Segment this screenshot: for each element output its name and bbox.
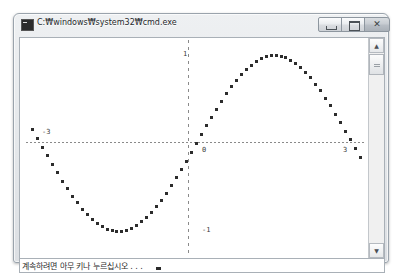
data-point [66, 187, 69, 190]
prompt-line: 계속하려면 아무 키나 누르십시오 . . . [19, 259, 385, 273]
x-tick-0: 0 [202, 146, 206, 154]
data-point [71, 195, 74, 198]
data-point [270, 54, 273, 57]
data-point [145, 216, 148, 219]
data-point [195, 142, 198, 145]
text-cursor [156, 267, 161, 270]
data-point [294, 62, 297, 65]
data-point [255, 60, 258, 63]
ascii-sine-plot: -3031-1 [20, 38, 369, 258]
data-point [76, 201, 79, 204]
prompt-text: 계속하려면 아무 키나 누르십시오 . . . [22, 260, 143, 271]
scroll-down-arrow-icon[interactable]: ▼ [369, 243, 384, 258]
data-point [324, 97, 327, 100]
data-point [354, 147, 357, 150]
data-point [284, 56, 287, 59]
data-point [319, 89, 322, 92]
data-point [190, 151, 193, 154]
data-point [314, 83, 317, 86]
data-point [130, 227, 133, 230]
data-point [349, 138, 352, 141]
y-tick-1: 1 [183, 50, 187, 58]
data-point [339, 121, 342, 124]
y-tick-minus-1: -1 [202, 226, 210, 234]
data-point [155, 205, 158, 208]
data-point [115, 230, 118, 233]
data-point [304, 71, 307, 74]
data-point [96, 222, 99, 225]
data-point [210, 116, 213, 119]
data-point [240, 73, 243, 76]
data-point [175, 176, 178, 179]
scrollbar-thumb[interactable] [369, 54, 384, 75]
data-point [106, 228, 109, 231]
x-tick-3: 3 [343, 146, 347, 154]
close-icon: ✕ [365, 18, 389, 31]
data-point [289, 59, 292, 62]
window-title: C:₩windows₩system32₩cmd.exe [37, 18, 177, 27]
console-window[interactable]: C:₩windows₩system32₩cmd.exe ✕ -3031-1 ▲ … [13, 13, 389, 263]
y-axis [188, 40, 189, 255]
data-point [299, 66, 302, 69]
data-point [125, 229, 128, 232]
vertical-scrollbar[interactable]: ▲ ▼ [368, 38, 384, 258]
console-icon [21, 19, 34, 31]
x-tick-minus-3: -3 [42, 128, 50, 136]
data-point [260, 57, 263, 60]
data-point [135, 224, 138, 227]
data-point [41, 146, 44, 149]
data-point [275, 54, 278, 57]
data-point [91, 218, 94, 221]
data-point [344, 130, 347, 133]
data-point [220, 100, 223, 103]
data-point [225, 92, 228, 95]
minimize-icon [319, 18, 341, 31]
data-point [165, 192, 168, 195]
close-button[interactable]: ✕ [364, 17, 390, 32]
data-point [185, 160, 188, 163]
console-client-area: -3031-1 ▲ ▼ [19, 37, 385, 259]
data-point [101, 225, 104, 228]
scroll-up-arrow-icon[interactable]: ▲ [369, 38, 384, 53]
data-point [31, 128, 34, 131]
data-point [170, 184, 173, 187]
data-point [180, 168, 183, 171]
data-point [86, 213, 89, 216]
data-point [230, 85, 233, 88]
data-point [160, 199, 163, 202]
title-bar[interactable]: C:₩windows₩system32₩cmd.exe ✕ [14, 14, 388, 36]
data-point [56, 171, 59, 174]
data-point [329, 104, 332, 107]
data-point [250, 64, 253, 67]
data-point [140, 220, 143, 223]
maximize-button[interactable] [341, 17, 365, 32]
data-point [200, 133, 203, 136]
data-point [205, 124, 208, 127]
data-point [46, 154, 49, 157]
data-point [235, 79, 238, 82]
data-point [265, 55, 268, 58]
data-point [51, 163, 54, 166]
data-point [36, 137, 39, 140]
data-point [215, 108, 218, 111]
data-point [120, 230, 123, 233]
data-point [280, 55, 283, 58]
data-point [334, 113, 337, 116]
data-point [111, 229, 114, 232]
data-point [309, 76, 312, 79]
data-point [359, 156, 362, 159]
data-point [81, 208, 84, 211]
minimize-button[interactable] [318, 17, 342, 32]
data-point [61, 180, 64, 183]
data-point [150, 211, 153, 214]
maximize-icon [342, 18, 364, 31]
data-point [245, 68, 248, 71]
